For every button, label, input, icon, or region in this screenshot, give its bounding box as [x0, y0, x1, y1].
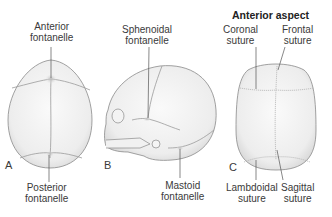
label-line: Posterior	[25, 182, 68, 193]
label-mastoid-fontanelle: Mastoid fontanelle	[161, 180, 204, 202]
label-line: Frontal	[282, 24, 313, 35]
label-line: fontanelle	[161, 191, 204, 202]
label-frontal-suture: Frontal suture	[282, 24, 313, 46]
label-lambdoidal-suture: Lambdoidal suture	[226, 182, 278, 204]
label-line: Anterior	[30, 21, 73, 32]
label-line: suture	[223, 35, 258, 46]
label-line: fontanelle	[25, 193, 68, 204]
label-line: fontanelle	[122, 35, 172, 46]
label-line: suture	[281, 193, 314, 204]
label-line: fontanelle	[30, 32, 73, 43]
label-coronal-suture: Coronal suture	[223, 24, 258, 46]
label-line: Lambdoidal	[226, 182, 278, 193]
label-posterior-fontanelle: Posterior fontanelle	[25, 182, 68, 204]
label-line: suture	[226, 193, 278, 204]
panel-letter-a: A	[5, 159, 12, 171]
panel-letter-c: C	[229, 161, 237, 173]
panel-letter-b: B	[104, 159, 111, 171]
label-sagittal-suture: Sagittal suture	[281, 182, 314, 204]
skull-lateral-view	[105, 47, 217, 178]
skull-superior-view	[8, 47, 92, 182]
label-line: Sagittal	[281, 182, 314, 193]
label-line: Mastoid	[161, 180, 204, 191]
label-anterior-fontanelle: Anterior fontanelle	[30, 21, 73, 43]
skull-anterior-view	[236, 47, 316, 180]
panel-c-title: Anterior aspect	[232, 9, 309, 21]
label-line: suture	[282, 35, 313, 46]
label-line: Sphenoidal	[122, 24, 172, 35]
label-sphenoidal-fontanelle: Sphenoidal fontanelle	[122, 24, 172, 46]
label-line: Coronal	[223, 24, 258, 35]
